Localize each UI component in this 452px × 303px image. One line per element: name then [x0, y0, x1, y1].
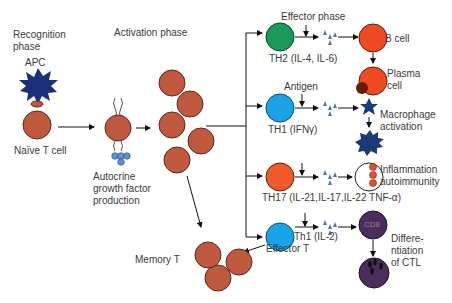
inflammation-label-2: autoimmunity	[380, 176, 439, 188]
recognition-phase-label: Recognition	[13, 29, 66, 41]
autocrine-label-2: growth factor	[93, 183, 151, 195]
memory-t-label: Memory T	[135, 254, 180, 266]
naive-t-cell-icon	[23, 111, 51, 139]
ctl-label-2: ntiation	[391, 245, 423, 257]
proliferating-t-cells-icon	[159, 70, 214, 173]
cytokine-icon	[323, 170, 337, 185]
macrophage-label-1: Macrophage	[380, 109, 436, 121]
plasma-cell-icon	[356, 67, 387, 95]
th1-label: TH1 (IFNγ)	[268, 124, 317, 136]
effector-phase-label: Effector phase	[281, 11, 345, 23]
antigen-label: Antigen	[284, 81, 318, 93]
ctl-label-1: Differe-	[391, 233, 424, 245]
plasma-cell-label-2: cell	[387, 80, 402, 92]
cd8-label: CD8	[364, 219, 380, 231]
th2-label: TH2 (IL-4, IL-6)	[269, 53, 337, 65]
inflammation-label-1: Inflammation	[380, 164, 437, 176]
macrophage-icon	[360, 98, 378, 115]
cytokine-icon	[323, 30, 337, 45]
growth-factor-icon	[112, 153, 131, 166]
plasma-cell-label-1: Plasma	[387, 68, 420, 80]
apc-label: APC	[25, 57, 46, 69]
apc-icon	[19, 68, 58, 107]
autocrine-label-3: production	[93, 195, 140, 207]
immune-response-diagram	[0, 0, 452, 303]
activated-t-cell-icon	[105, 98, 131, 151]
effector-t-label: Effector T	[266, 243, 309, 255]
b-cell-icon	[359, 24, 387, 52]
memory-t-cells-icon	[195, 242, 252, 291]
b-cell-label: B cell	[385, 33, 409, 45]
cytokine-icon	[323, 101, 337, 116]
ctl-cell-icon	[359, 258, 389, 288]
inflammation-cell-icon	[355, 163, 383, 191]
th1-cell-icon	[266, 94, 294, 122]
ctl-label-3: of CTL	[391, 257, 421, 269]
recognition-phase-label-2: phase	[13, 41, 40, 53]
th1-il2-label: Th1 (IL-2)	[294, 231, 338, 243]
naive-t-cell-label: Naïve T cell	[14, 145, 66, 157]
autocrine-label-1: Autocrine	[93, 171, 135, 183]
th17-cell-icon	[266, 163, 294, 191]
macrophage-label-2: activation	[380, 121, 422, 133]
activation-phase-label: Activation phase	[114, 27, 187, 39]
th17-label: TH17 (IL-21,IL-17,IL-22 TNF-α)	[262, 192, 401, 204]
th2-cell-icon	[266, 23, 294, 51]
activated-macrophage-icon	[355, 130, 384, 156]
